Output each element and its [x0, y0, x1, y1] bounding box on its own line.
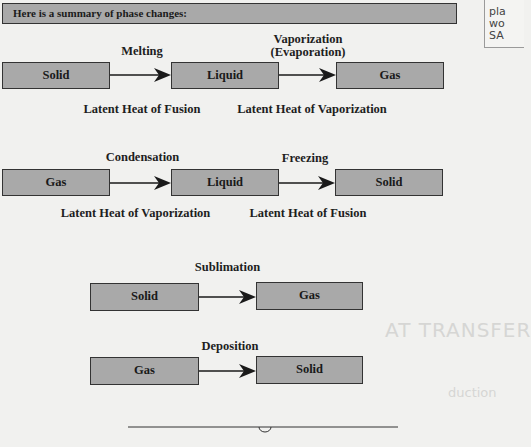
state-box-liquid: Liquid: [171, 169, 279, 196]
heat-label-fusion: Latent Heat of Fusion: [82, 103, 202, 116]
state-box-gas: Gas: [336, 62, 444, 89]
heat-label-vaporization: Latent Heat of Vaporization: [58, 207, 213, 220]
state-box-gas: Gas: [256, 282, 363, 310]
process-label-condensation: Condensation: [100, 151, 185, 164]
arrow-right-icon: [110, 175, 172, 191]
arrow-right-icon: [199, 289, 257, 305]
process-label-sublimation: Sublimation: [190, 261, 265, 274]
process-label-deposition: Deposition: [195, 340, 265, 353]
arrow-right-icon: [279, 175, 336, 191]
side-note-line: SA: [489, 30, 524, 42]
side-note: pla wo SA: [484, 0, 524, 48]
heat-label-fusion: Latent Heat of Fusion: [248, 207, 368, 220]
state-box-solid: Solid: [256, 356, 363, 384]
arrow-right-icon: [199, 363, 257, 379]
background-heading: AT TRANSFER: [385, 318, 531, 342]
state-box-solid: Solid: [2, 62, 110, 89]
arrow-right-icon: [110, 67, 172, 83]
state-box-solid: Solid: [335, 169, 443, 196]
state-box-gas: Gas: [2, 169, 110, 196]
process-label-vaporization: Vaporization (Evaporation): [268, 33, 348, 59]
state-box-solid: Solid: [90, 283, 199, 311]
heat-label-vaporization: Latent Heat of Vaporization: [237, 103, 387, 116]
summary-header: Here is a summary of phase changes:: [2, 3, 457, 24]
arrow-right-icon: [279, 67, 337, 83]
label-line: (Evaporation): [268, 46, 348, 59]
state-box-gas: Gas: [90, 357, 199, 385]
process-label-melting: Melting: [112, 45, 172, 58]
process-label-freezing: Freezing: [280, 152, 330, 165]
divider-line: [126, 420, 401, 436]
state-box-liquid: Liquid: [171, 62, 279, 89]
background-subheading: duction: [448, 385, 497, 400]
